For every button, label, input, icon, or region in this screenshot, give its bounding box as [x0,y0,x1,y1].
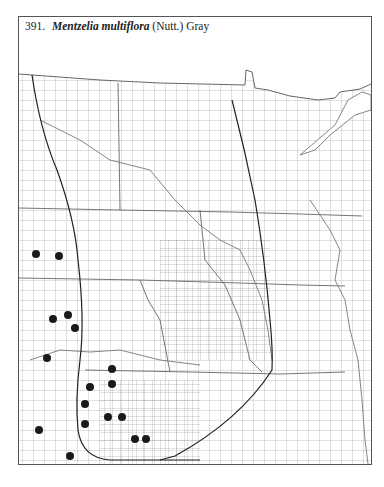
occurrence-dot [49,315,57,323]
occurrence-dot [81,420,89,428]
occurrence-dot [86,383,94,391]
occurrence-dot [43,354,51,362]
occurrence-dot [66,452,74,460]
occurrence-dot [108,365,116,373]
county-map [0,0,384,487]
occurrence-dot [108,380,116,388]
occurrence-dot [32,250,40,258]
map-region [19,74,371,464]
occurrence-dot [64,311,72,319]
occurrence-dot [55,252,63,260]
occurrence-dot [71,324,79,332]
occurrence-dot [118,413,126,421]
occurrence-dot [35,426,43,434]
occurrence-dot [104,413,112,421]
occurrence-dot [142,435,150,443]
occurrence-dot [131,435,139,443]
occurrence-dot [81,400,89,408]
